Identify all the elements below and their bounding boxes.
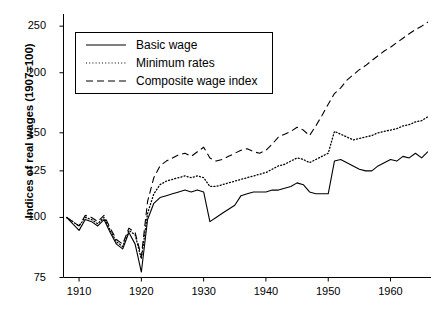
y-tick-marks (60, 26, 64, 277)
y-tick-label: 200 (12, 67, 46, 78)
real-wages-line-chart: Indices of real wages (1907=100) 7510012… (0, 0, 439, 313)
y-tick-label: 125 (12, 165, 46, 176)
series-line-basic-wage (67, 152, 428, 272)
legend-line-dashed (84, 75, 128, 87)
x-tick-label: 1960 (371, 286, 411, 297)
y-tick-label: 250 (12, 20, 46, 31)
x-tick-label: 1950 (308, 286, 348, 297)
y-tick-label: 75 (12, 272, 46, 283)
legend-entry-composite-wage-index: Composite wage index (84, 72, 257, 90)
legend-line-solid (84, 39, 128, 51)
x-tick-label: 1910 (59, 286, 99, 297)
legend-entry-minimum-rates: Minimum rates (84, 54, 215, 72)
legend-entry-basic-wage: Basic wage (84, 36, 197, 54)
x-tick-label: 1920 (121, 286, 161, 297)
legend-label: Minimum rates (136, 57, 215, 69)
legend-label: Composite wage index (136, 75, 257, 87)
series-line-minimum-rates (67, 117, 428, 259)
x-tick-marks (79, 278, 390, 282)
x-tick-label: 1930 (184, 286, 224, 297)
y-tick-label: 100 (12, 211, 46, 222)
x-tick-label: 1940 (246, 286, 286, 297)
legend-line-dotted (84, 57, 128, 69)
y-tick-label: 150 (12, 127, 46, 138)
legend-label: Basic wage (136, 39, 197, 51)
legend: Basic wage Minimum rates Composite wage … (75, 32, 273, 94)
